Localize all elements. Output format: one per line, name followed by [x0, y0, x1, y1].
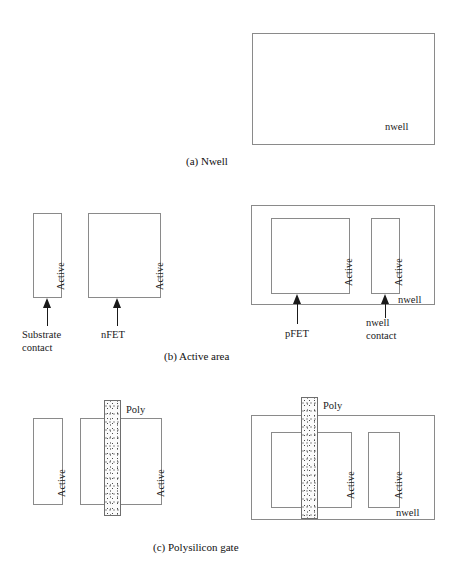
- active-label-c-left: Active: [56, 469, 67, 497]
- active-label-nwell-contact: Active: [393, 258, 404, 286]
- active-label-nfet: Active: [154, 262, 165, 290]
- caption-c: (c) Polysilicon gate: [153, 541, 239, 553]
- active-label-pfet: Active: [343, 258, 354, 286]
- active-label-c-nfet: Active: [155, 469, 166, 497]
- nwell-label-a: nwell: [385, 120, 408, 133]
- active-label-substrate-contact: Active: [55, 262, 66, 290]
- active-label-c-nwell-contact: Active: [393, 471, 404, 499]
- nfet-label: nFET: [101, 328, 125, 341]
- poly-stripe-c-right: [301, 397, 318, 519]
- active-label-c-pfet: Active: [345, 471, 356, 499]
- arrow-substrate-contact: [39, 298, 55, 326]
- poly-label-c-left: Poly: [126, 403, 145, 416]
- active-rect-pfet: [271, 218, 350, 294]
- poly-stripe-c-left: [104, 400, 121, 516]
- nwell-contact-label: nwell contact: [366, 316, 418, 342]
- pfet-label: pFET: [285, 327, 309, 340]
- poly-label-c-right: Poly: [323, 399, 342, 412]
- active-rect-nfet: [88, 213, 161, 298]
- nwell-label-c: nwell: [396, 506, 419, 519]
- substrate-contact-label: Substrate contact: [22, 328, 92, 354]
- active-rect-c-nfet: [80, 418, 162, 505]
- cmos-layout-figure: nwell (a) Nwell Active Active Substrate …: [0, 0, 450, 571]
- arrow-nfet: [109, 298, 125, 326]
- caption-b: (b) Active area: [164, 350, 229, 362]
- arrow-pfet: [289, 294, 305, 324]
- arrow-nwell-contact: [377, 294, 393, 318]
- nwell-label-b: nwell: [398, 293, 421, 306]
- caption-a: (a) Nwell: [186, 155, 228, 167]
